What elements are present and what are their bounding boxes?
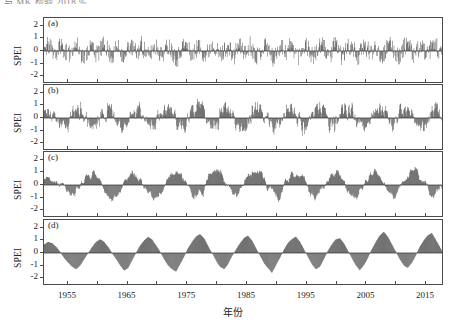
- x-tick-mark: [306, 146, 307, 150]
- x-tick-label: 2005: [348, 290, 382, 300]
- panel-label: (d): [48, 220, 59, 230]
- x-tick-mark: [276, 281, 277, 285]
- x-tick-mark: [186, 213, 187, 217]
- x-tick-mark: [395, 213, 396, 217]
- series-plot: [44, 18, 443, 83]
- x-tick-mark: [97, 79, 98, 83]
- y-tick-label: 1: [22, 98, 38, 108]
- y-tick-label: -2: [22, 69, 38, 79]
- x-tick-mark: [425, 146, 426, 150]
- x-tick-mark: [127, 281, 128, 285]
- series-plot: [44, 152, 443, 217]
- x-tick-mark: [186, 146, 187, 150]
- plot-area: [43, 17, 443, 83]
- x-tick-mark: [276, 213, 277, 217]
- panel-a: SPEI210-1-2(a): [0, 17, 465, 83]
- x-tick-mark: [216, 281, 217, 285]
- y-tick-label: -1: [22, 57, 38, 67]
- y-tick-label: 2: [22, 221, 38, 231]
- y-tick-label: 2: [22, 86, 38, 96]
- x-tick-mark: [425, 79, 426, 83]
- x-tick-mark: [306, 213, 307, 217]
- y-tick-label: 0: [22, 111, 38, 121]
- x-tick-mark: [306, 79, 307, 83]
- x-tick-mark: [246, 79, 247, 83]
- panel-b: SPEI210-1-2(b): [0, 84, 465, 150]
- panel-label: (a): [48, 18, 58, 28]
- y-tick-label: 1: [22, 31, 38, 41]
- spei-bars: [44, 99, 443, 136]
- x-tick-mark: [97, 213, 98, 217]
- x-tick-label: 1955: [50, 290, 84, 300]
- x-tick-mark: [276, 146, 277, 150]
- x-tick-mark: [127, 146, 128, 150]
- x-tick-mark: [67, 146, 68, 150]
- x-tick-mark: [306, 281, 307, 285]
- plot-area: [43, 219, 443, 285]
- series-plot: [44, 85, 443, 150]
- x-tick-mark: [127, 79, 128, 83]
- panel-c: SPEI210-1-2(c): [0, 151, 465, 217]
- x-tick-label: 1965: [110, 290, 144, 300]
- x-tick-mark: [216, 146, 217, 150]
- y-tick-label: 1: [22, 233, 38, 243]
- y-tick-label: 2: [22, 19, 38, 29]
- x-tick-mark: [156, 146, 157, 150]
- panel-label: (c): [48, 152, 58, 162]
- panel-d: SPEI210-1-2(d): [0, 219, 465, 285]
- x-tick-mark: [97, 281, 98, 285]
- spei-figure: 与 MK 检验 2018 % SPEI210-1-2(a)SPEI210-1-2…: [0, 0, 465, 323]
- y-tick-label: 2: [22, 153, 38, 163]
- x-tick-mark: [97, 146, 98, 150]
- cropped-caption-text: 与 MK 检验 2018 %: [4, 0, 87, 4]
- x-tick-mark: [216, 79, 217, 83]
- plot-area: [43, 151, 443, 217]
- y-tick-label: -1: [22, 124, 38, 134]
- y-tick-label: 0: [22, 246, 38, 256]
- x-tick-mark: [67, 281, 68, 285]
- x-tick-mark: [67, 213, 68, 217]
- x-tick-mark: [395, 79, 396, 83]
- x-tick-mark: [186, 281, 187, 285]
- x-tick-mark: [395, 146, 396, 150]
- x-tick-mark: [336, 146, 337, 150]
- spei-bars: [44, 167, 443, 202]
- x-tick-label: 1995: [289, 290, 323, 300]
- y-tick-label: -2: [22, 203, 38, 213]
- x-tick-mark: [246, 213, 247, 217]
- y-tick-label: 1: [22, 165, 38, 175]
- x-tick-mark: [186, 79, 187, 83]
- x-tick-mark: [365, 213, 366, 217]
- x-tick-mark: [246, 146, 247, 150]
- spei-bars: [44, 232, 443, 273]
- x-tick-mark: [365, 146, 366, 150]
- x-tick-mark: [67, 79, 68, 83]
- x-tick-mark: [425, 213, 426, 217]
- x-tick-mark: [246, 281, 247, 285]
- x-tick-label: 1975: [169, 290, 203, 300]
- x-tick-mark: [365, 281, 366, 285]
- x-tick-mark: [156, 79, 157, 83]
- x-tick-mark: [156, 213, 157, 217]
- y-tick-label: -1: [22, 259, 38, 269]
- plot-area: [43, 84, 443, 150]
- y-tick-label: -2: [22, 136, 38, 146]
- x-tick-mark: [156, 281, 157, 285]
- panel-label: (b): [48, 85, 59, 95]
- y-tick-label: 0: [22, 178, 38, 188]
- x-tick-mark: [365, 79, 366, 83]
- x-tick-mark: [216, 213, 217, 217]
- x-tick-mark: [395, 281, 396, 285]
- x-tick-label: 1985: [229, 290, 263, 300]
- x-tick-mark: [276, 79, 277, 83]
- x-tick-mark: [336, 281, 337, 285]
- x-tick-label: 2015: [408, 290, 442, 300]
- x-tick-mark: [127, 213, 128, 217]
- x-axis-title: 年份: [0, 304, 465, 319]
- x-tick-mark: [425, 281, 426, 285]
- x-tick-mark: [336, 213, 337, 217]
- y-tick-label: 0: [22, 44, 38, 54]
- x-tick-mark: [336, 79, 337, 83]
- y-tick-label: -2: [22, 271, 38, 281]
- series-plot: [44, 220, 443, 285]
